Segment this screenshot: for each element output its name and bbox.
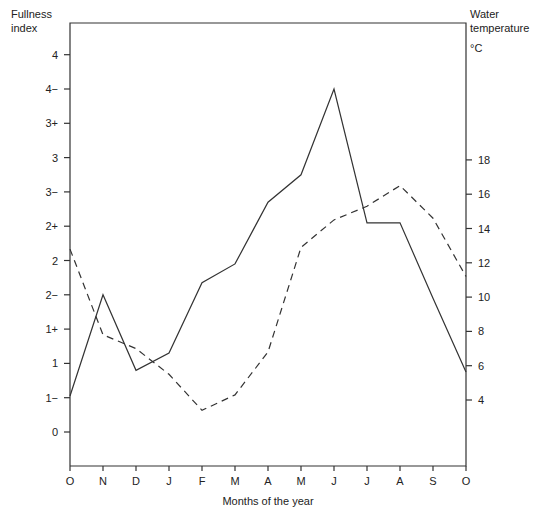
right-tick-label: 10 — [478, 291, 490, 303]
x-axis-months: ONDJFMAMJJASO — [66, 466, 471, 487]
left-tick-label: 3 — [52, 152, 58, 164]
left-tick-label: 4 — [52, 49, 58, 61]
right-tick-label: 12 — [478, 257, 490, 269]
left-axis-fullness: 01−11+2−22+3−33+4−4 — [45, 49, 70, 438]
right-axis-title-line1: Water — [470, 8, 499, 20]
right-tick-label: 6 — [478, 360, 484, 372]
x-tick-label: J — [331, 475, 337, 487]
x-tick-label: A — [396, 475, 404, 487]
x-tick-label: M — [296, 475, 305, 487]
left-tick-label: 4− — [45, 83, 58, 95]
right-tick-label: 14 — [478, 223, 490, 235]
x-tick-label: D — [132, 475, 140, 487]
temperature-line — [70, 186, 466, 411]
data-series — [70, 89, 466, 410]
fullness-line — [70, 89, 466, 396]
right-tick-label: 4 — [478, 394, 484, 406]
left-tick-label: 3− — [45, 186, 58, 198]
left-axis-title-line2: index — [11, 22, 38, 34]
left-tick-label: 1+ — [45, 323, 58, 335]
plot-frame — [70, 23, 466, 466]
x-axis-title: Months of the year — [222, 495, 313, 507]
x-tick-label: J — [364, 475, 370, 487]
x-tick-label: J — [166, 475, 172, 487]
left-tick-label: 1 — [52, 357, 58, 369]
x-tick-label: F — [199, 475, 206, 487]
right-tick-label: 8 — [478, 325, 484, 337]
x-tick-label: S — [429, 475, 436, 487]
left-tick-label: 2 — [52, 255, 58, 267]
right-axis-title-line2: temperature — [470, 22, 529, 34]
x-tick-label: M — [230, 475, 239, 487]
x-tick-label: N — [99, 475, 107, 487]
right-tick-label: 16 — [478, 188, 490, 200]
right-tick-label: 18 — [478, 154, 490, 166]
left-tick-label: 2− — [45, 289, 58, 301]
left-tick-label: 0 — [52, 426, 58, 438]
right-axis-temperature: 4681012141618 — [466, 154, 490, 406]
fullness-temperature-chart: 01−11+2−22+3−33+4−4 4681012141618 ONDJFM… — [0, 0, 545, 518]
x-tick-label: A — [264, 475, 272, 487]
left-tick-label: 2+ — [45, 220, 58, 232]
left-tick-label: 1− — [45, 392, 58, 404]
right-axis-unit: °C — [470, 42, 482, 54]
left-tick-label: 3+ — [45, 117, 58, 129]
x-tick-label: O — [66, 475, 75, 487]
left-axis-title-line1: Fullness — [11, 8, 52, 20]
x-tick-label: O — [462, 475, 471, 487]
